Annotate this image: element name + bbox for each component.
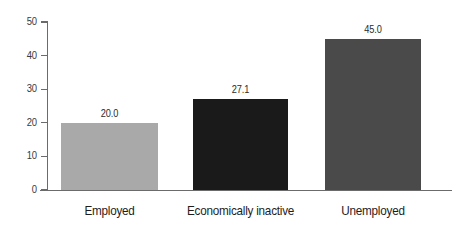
bar-value-label: 27.1 bbox=[199, 83, 283, 95]
y-tick-label: 50 bbox=[5, 15, 37, 27]
y-axis-line bbox=[47, 21, 48, 191]
bar-1 bbox=[61, 123, 158, 190]
y-axis-ticks: 01020304050 bbox=[0, 0, 456, 237]
y-tick-label: 0 bbox=[5, 183, 37, 195]
y-tick-label: 40 bbox=[5, 49, 37, 61]
bars-layer: 20.027.145.0 bbox=[0, 0, 456, 237]
x-axis-category-labels: EmployedEconomically inactiveUnemployed bbox=[0, 0, 456, 237]
y-tick-label: 20 bbox=[5, 116, 37, 128]
category-label-3: Unemployed bbox=[294, 203, 452, 218]
bar-chart: 01020304050 20.027.145.0 EmployedEconomi… bbox=[0, 0, 456, 237]
category-label-2: Economically inactive bbox=[162, 203, 320, 218]
bar-value-label: 45.0 bbox=[331, 23, 415, 35]
bar-value-label: 20.0 bbox=[67, 107, 152, 119]
x-axis-line bbox=[40, 190, 452, 191]
y-tick-label: 30 bbox=[5, 82, 37, 94]
category-label-1: Employed bbox=[30, 203, 189, 218]
bar-2 bbox=[193, 99, 288, 190]
bar-3 bbox=[325, 39, 421, 190]
y-tick-label: 10 bbox=[5, 149, 37, 161]
